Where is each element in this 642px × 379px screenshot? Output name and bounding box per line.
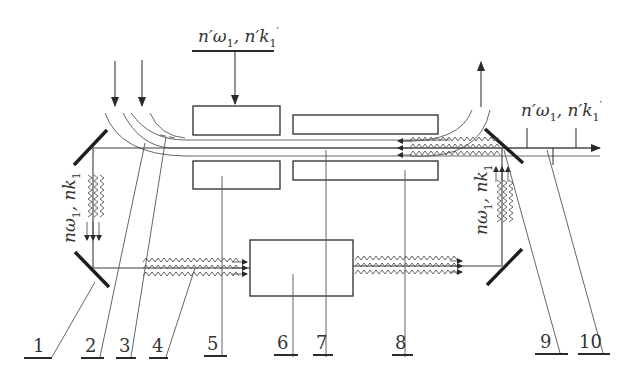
- mirror-right-top: [485, 129, 523, 163]
- callout-10: 10: [578, 331, 610, 354]
- lower-block-8: [293, 161, 438, 180]
- central-block-6: [250, 240, 353, 296]
- svg-text:10: 10: [579, 331, 602, 352]
- upper-block-5: [193, 106, 280, 135]
- callout-4: 4: [149, 335, 168, 358]
- right-vertical-wave-packet: [496, 167, 513, 222]
- callout-9: 9: [535, 331, 568, 354]
- left-vertical-wave-packet: [87, 175, 104, 240]
- callout-1: 1: [24, 335, 52, 358]
- right-output-label: n′ω1, n′k1′: [521, 99, 603, 124]
- svg-text:9: 9: [540, 331, 551, 352]
- svg-text:8: 8: [395, 332, 406, 353]
- callout-5: 5: [204, 333, 227, 356]
- callout-8: 8: [392, 332, 413, 355]
- upper-block-8: [293, 115, 438, 134]
- svg-text:1: 1: [33, 335, 44, 356]
- svg-text:2: 2: [85, 335, 96, 356]
- mirror-right-bottom: [487, 249, 522, 285]
- svg-text:7: 7: [316, 332, 327, 353]
- bottom-right-wave-packet: [355, 256, 462, 274]
- callout-7: 7: [313, 332, 333, 355]
- right-vertical-label: nω1, nk1: [471, 164, 495, 235]
- lower-block-5: [193, 161, 280, 189]
- left-vertical-label: nω1, nk1: [59, 172, 83, 243]
- svg-text:3: 3: [119, 335, 130, 356]
- mirror-left-bottom: [75, 252, 109, 287]
- top-input-label: n′ω1, n′k1′: [192, 25, 280, 51]
- optical-schematic-diagram: n′ω1, n′k1′ nω1, nk1: [0, 0, 642, 379]
- svg-text:4: 4: [152, 335, 163, 356]
- bottom-left-wave-packet: [143, 258, 247, 276]
- svg-text:5: 5: [207, 333, 218, 354]
- svg-text:n′ω1, n′k1′: n′ω1, n′k1′: [198, 25, 280, 50]
- callout-6: 6: [274, 332, 298, 355]
- svg-text:6: 6: [277, 332, 288, 353]
